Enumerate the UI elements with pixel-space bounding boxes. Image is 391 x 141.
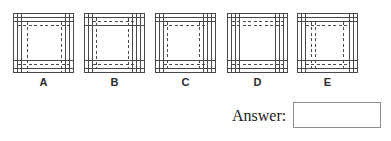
figure-a	[13, 13, 74, 73]
figure-d	[227, 13, 288, 73]
answer-label: Answer:	[232, 107, 286, 125]
figure-label-b: B	[84, 76, 145, 88]
figure-e	[297, 13, 358, 73]
answer-input-box[interactable]	[293, 102, 381, 128]
figure-c	[155, 13, 216, 73]
figure-label-e: E	[297, 76, 358, 88]
answer-row: Answer:	[232, 101, 387, 135]
figure-label-c: C	[155, 76, 216, 88]
figure-label-a: A	[13, 76, 74, 88]
figure-b	[84, 13, 145, 73]
figure-label-d: D	[227, 76, 288, 88]
figure-canvas: A	[0, 0, 391, 141]
